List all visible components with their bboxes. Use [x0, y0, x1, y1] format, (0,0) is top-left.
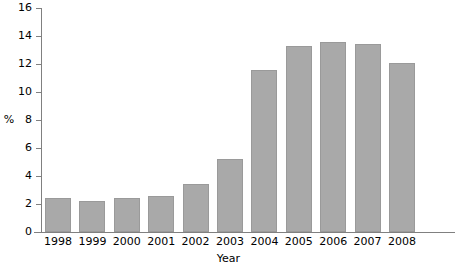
y-tick-label: 4	[10, 170, 32, 181]
y-tick-label-wrap: 16	[8, 2, 32, 14]
bar-2008	[389, 63, 415, 232]
y-tick-mark	[36, 232, 41, 233]
plot-area	[41, 8, 455, 232]
x-axis-line	[34, 232, 455, 233]
bar-2000	[114, 198, 140, 232]
bar-2004	[251, 70, 277, 232]
y-tick-label: 12	[10, 58, 32, 69]
y-tick-label-wrap: 12	[8, 58, 32, 70]
x-tick-label: 2008	[382, 236, 422, 247]
y-tick-label-wrap: 2	[8, 198, 32, 210]
y-tick-label: 14	[10, 30, 32, 41]
y-tick-label: 6	[10, 142, 32, 153]
bar-1999	[79, 201, 105, 232]
bar-2002	[183, 184, 209, 232]
y-tick-label-wrap: 6	[8, 142, 32, 154]
y-tick-label: 10	[10, 86, 32, 97]
bar-2001	[148, 196, 174, 232]
y-tick-label-wrap: 10	[8, 86, 32, 98]
bar-2007	[355, 44, 381, 232]
x-axis-title: Year	[0, 252, 457, 265]
y-tick-label: 0	[10, 226, 32, 237]
bar-1998	[45, 198, 71, 232]
y-tick-label-wrap: 14	[8, 30, 32, 42]
y-tick-label: 2	[10, 198, 32, 209]
y-tick-label: 16	[10, 2, 32, 13]
y-tick-label-wrap: 0	[8, 226, 32, 238]
bar-2006	[320, 42, 346, 232]
y-tick-label: 8	[10, 114, 32, 125]
y-tick-label-wrap: 8	[8, 114, 32, 126]
bar-2005	[286, 46, 312, 232]
bar-2003	[217, 159, 243, 232]
y-tick-label-wrap: 4	[8, 170, 32, 182]
bar-chart: % 0246810121416 199819992000200120022003…	[0, 0, 457, 267]
